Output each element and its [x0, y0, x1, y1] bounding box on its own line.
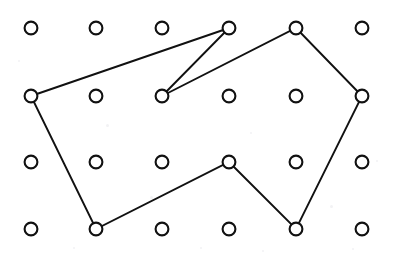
geoboard-canvas: [0, 0, 396, 259]
grid-peg-c5-r1[interactable]: [356, 90, 369, 103]
grid-peg-c3-r3[interactable]: [223, 223, 236, 236]
grid-peg-c5-r3[interactable]: [356, 223, 369, 236]
grid-peg-c2-r0[interactable]: [156, 22, 169, 35]
grid-peg-c3-r1[interactable]: [223, 90, 236, 103]
grid-peg-c4-r3[interactable]: [290, 223, 303, 236]
grid-peg-c0-r0[interactable]: [25, 22, 38, 35]
grid-peg-c0-r2[interactable]: [25, 156, 38, 169]
grid-peg-c5-r2[interactable]: [356, 156, 369, 169]
grid-peg-c2-r1[interactable]: [156, 90, 169, 103]
grid-peg-c0-r1[interactable]: [25, 90, 38, 103]
grid-peg-c4-r1[interactable]: [290, 90, 303, 103]
grid-peg-c1-r3[interactable]: [90, 223, 103, 236]
grid-peg-c2-r2[interactable]: [156, 156, 169, 169]
grid-peg-c4-r0[interactable]: [290, 22, 303, 35]
grid-peg-c1-r2[interactable]: [90, 156, 103, 169]
grid-peg-c5-r0[interactable]: [356, 22, 369, 35]
grid-peg-c3-r0[interactable]: [223, 22, 236, 35]
geoboard-figure: [0, 0, 396, 259]
grid-peg-c2-r3[interactable]: [156, 223, 169, 236]
grid-peg-c3-r2[interactable]: [223, 156, 236, 169]
grid-peg-c0-r3[interactable]: [25, 223, 38, 236]
grid-peg-c4-r2[interactable]: [290, 156, 303, 169]
grid-peg-c1-r1[interactable]: [90, 90, 103, 103]
grid-peg-c1-r0[interactable]: [90, 22, 103, 35]
